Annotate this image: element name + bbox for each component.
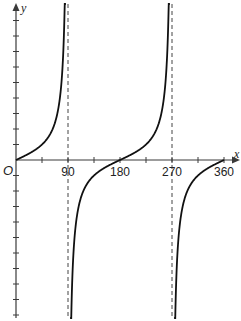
x-tick-label: 360 xyxy=(214,165,234,179)
origin-label: O xyxy=(3,163,13,178)
x-axis-label: x xyxy=(233,147,240,161)
y-axis-arrow-icon xyxy=(13,3,20,11)
labels: y x O 90180270360 xyxy=(3,1,240,179)
x-tick-label: 270 xyxy=(162,165,182,179)
axes xyxy=(13,3,241,318)
tan-curve-branch-1 xyxy=(16,4,66,160)
tangent-graph: y x O 90180270360 xyxy=(0,0,241,321)
y-axis-label: y xyxy=(20,1,27,15)
tan-curve-branch-3 xyxy=(174,160,224,318)
x-tick-label: 180 xyxy=(110,165,130,179)
x-tick-label: 90 xyxy=(61,165,75,179)
